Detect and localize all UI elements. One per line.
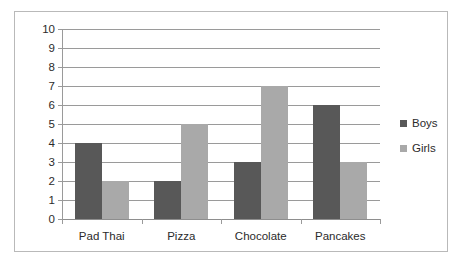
y-axis-tick-label: 3 — [49, 156, 55, 168]
x-tick-1 — [142, 219, 143, 224]
bar-boys-pancakes — [313, 105, 340, 219]
legend-item-boys: Boys — [400, 117, 438, 129]
y-axis-tick-label: 4 — [49, 137, 55, 149]
x-axis-label-pad-thai: Pad Thai — [79, 230, 125, 242]
bar-boys-pizza — [154, 181, 181, 219]
bar-boys-pad-thai — [75, 143, 102, 219]
y-axis-tick-label: 0 — [49, 213, 55, 225]
legend-swatch-boys-icon — [400, 120, 407, 127]
legend-label-girls: Girls — [412, 142, 436, 154]
x-tick-2 — [221, 219, 222, 224]
y-axis-tick-label: 7 — [49, 80, 55, 92]
y-axis-tick-label: 10 — [42, 23, 55, 35]
plot-area: 012345678910 Pad ThaiPizzaChocolatePanca… — [62, 29, 380, 219]
bar-boys-chocolate — [234, 162, 261, 219]
legend-swatch-girls-icon — [400, 145, 407, 152]
chart-frame: 012345678910 Pad ThaiPizzaChocolatePanca… — [14, 11, 448, 252]
x-axis-label-pancakes: Pancakes — [315, 230, 366, 242]
legend-label-boys: Boys — [412, 117, 438, 129]
y-axis-tick-label: 1 — [49, 194, 55, 206]
x-axis-label-pizza: Pizza — [167, 230, 195, 242]
y-axis-tick-label: 9 — [49, 42, 55, 54]
y-axis-tick-label: 8 — [49, 61, 55, 73]
bar-girls-pad-thai — [102, 181, 129, 219]
y-axis-tick-label: 5 — [49, 118, 55, 130]
bar-girls-pizza — [181, 124, 208, 219]
legend-item-girls: Girls — [400, 142, 438, 154]
x-axis-label-chocolate: Chocolate — [235, 230, 287, 242]
x-tick-3 — [301, 219, 302, 224]
bars-layer — [62, 29, 380, 219]
x-tick-end-0 — [62, 219, 63, 224]
y-axis-tick-label: 2 — [49, 175, 55, 187]
x-tick-end-1 — [380, 219, 381, 224]
bar-girls-pancakes — [340, 162, 367, 219]
chart-legend: Boys Girls — [400, 117, 438, 154]
y-axis-tick-label: 6 — [49, 99, 55, 111]
bar-girls-chocolate — [261, 86, 288, 219]
